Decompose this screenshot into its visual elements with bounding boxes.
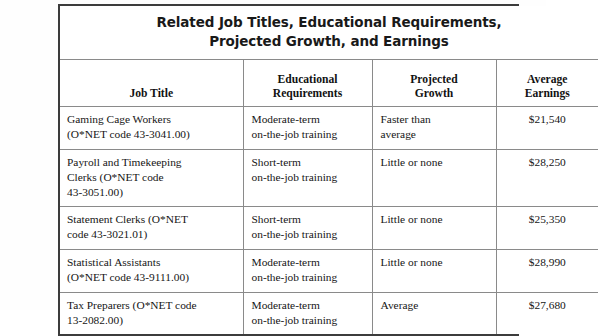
cell-job-title-line-2: (O*NET code 43-3041.00): [67, 127, 237, 142]
table-row: Gaming Cage Workers (O*NET code 43-3041.…: [60, 107, 598, 150]
cell-education-line-2: on-the-job training: [252, 270, 366, 285]
cell-growth-line-2: average: [381, 127, 490, 142]
column-header-educational-requirements-line-2: Requirements: [248, 87, 368, 101]
table-row: Statement Clerks (O*NET code 43-3021.01)…: [60, 207, 598, 250]
table-body: Gaming Cage Workers (O*NET code 43-3041.…: [60, 107, 598, 335]
cell-growth-line-1: Average: [381, 298, 490, 313]
table-row: Tax Preparers (O*NET code 13-2082.00) Mo…: [60, 292, 598, 334]
column-header-projected-growth: Projected Growth: [372, 60, 496, 107]
cell-growth-line-1: Little or none: [381, 155, 490, 170]
column-header-projected-growth-line-2: Growth: [377, 87, 492, 101]
cell-education-line-1: Moderate-term: [252, 298, 366, 313]
table-row: Statistical Assistants (O*NET code 43-91…: [60, 250, 598, 293]
cell-job-title-line-2: Clerks (O*NET code: [67, 170, 237, 185]
cell-education-line-2: on-the-job training: [252, 127, 366, 142]
cell-job-title-line-1: Statement Clerks (O*NET: [67, 212, 237, 227]
cell-growth-line-1: Faster than: [381, 112, 490, 127]
table-title: Related Job Titles, Educational Requirem…: [60, 6, 598, 60]
cell-education-line-2: on-the-job training: [252, 313, 366, 328]
table-title-line-1: Related Job Titles, Educational Requirem…: [70, 13, 588, 32]
column-header-educational-requirements: Educational Requirements: [243, 60, 372, 107]
cell-job-title: Tax Preparers (O*NET code 13-2082.00): [60, 292, 243, 334]
column-header-average-earnings-line-1: Average: [501, 73, 595, 87]
cell-projected-growth: Faster than average: [372, 107, 496, 150]
cell-job-title-line-3: 43-3051.00): [67, 185, 237, 200]
cell-education-line-1: Short-term: [252, 212, 366, 227]
cell-average-earnings: $21,540: [496, 107, 598, 150]
cell-educational-requirements: Short-term on-the-job training: [243, 207, 372, 250]
cell-educational-requirements: Short-term on-the-job training: [243, 149, 372, 206]
column-header-average-earnings: Average Earnings: [496, 60, 598, 107]
cell-educational-requirements: Moderate-term on-the-job training: [243, 250, 372, 293]
cell-average-earnings: $27,680: [496, 292, 598, 334]
table-head: Related Job Titles, Educational Requirem…: [60, 6, 598, 107]
cell-job-title-line-2: code 43-3021.01): [67, 227, 237, 242]
job-titles-table-container: Related Job Titles, Educational Requirem…: [58, 4, 519, 336]
job-titles-table: Related Job Titles, Educational Requirem…: [60, 6, 598, 334]
cell-average-earnings: $28,990: [496, 250, 598, 293]
cell-job-title-line-1: Tax Preparers (O*NET code: [67, 298, 237, 313]
cell-education-line-1: Moderate-term: [252, 255, 366, 270]
cell-educational-requirements: Moderate-term on-the-job training: [243, 107, 372, 150]
cell-job-title-line-2: 13-2082.00): [67, 313, 237, 328]
cell-average-earnings: $25,350: [496, 207, 598, 250]
cell-projected-growth: Little or none: [372, 250, 496, 293]
column-header-educational-requirements-line-1: Educational: [248, 73, 368, 87]
cell-education-line-2: on-the-job training: [252, 170, 366, 185]
table-title-row: Related Job Titles, Educational Requirem…: [60, 6, 598, 60]
cell-average-earnings: $28,250: [496, 149, 598, 206]
column-header-job-title-line-1: Job Title: [64, 87, 239, 101]
cell-job-title: Statement Clerks (O*NET code 43-3021.01): [60, 207, 243, 250]
table-title-line-2: Projected Growth, and Earnings: [70, 32, 588, 51]
column-header-projected-growth-line-1: Projected: [377, 73, 492, 87]
cell-education-line-1: Moderate-term: [252, 112, 366, 127]
cell-job-title-line-1: Statistical Assistants: [67, 255, 237, 270]
table-header-row: Job Title Educational Requirements Proje…: [60, 60, 598, 107]
column-header-job-title: Job Title: [60, 60, 243, 107]
cell-job-title: Payroll and Timekeeping Clerks (O*NET co…: [60, 149, 243, 206]
column-header-average-earnings-line-2: Earnings: [501, 87, 595, 101]
cell-job-title-line-1: Gaming Cage Workers: [67, 112, 237, 127]
cell-projected-growth: Little or none: [372, 207, 496, 250]
cell-education-line-1: Short-term: [252, 155, 366, 170]
cell-growth-line-1: Little or none: [381, 255, 490, 270]
cell-job-title: Gaming Cage Workers (O*NET code 43-3041.…: [60, 107, 243, 150]
cell-educational-requirements: Moderate-term on-the-job training: [243, 292, 372, 334]
cell-job-title: Statistical Assistants (O*NET code 43-91…: [60, 250, 243, 293]
cell-projected-growth: Average: [372, 292, 496, 334]
cell-job-title-line-1: Payroll and Timekeeping: [67, 155, 237, 170]
cell-job-title-line-2: (O*NET code 43-9111.00): [67, 270, 237, 285]
cell-education-line-2: on-the-job training: [252, 227, 366, 242]
table-row: Payroll and Timekeeping Clerks (O*NET co…: [60, 149, 598, 206]
cell-growth-line-1: Little or none: [381, 212, 490, 227]
cell-projected-growth: Little or none: [372, 149, 496, 206]
